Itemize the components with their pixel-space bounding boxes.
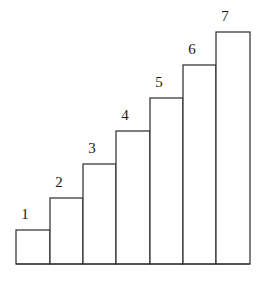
bar-label-4: 4 xyxy=(121,107,129,123)
bar-label-7: 7 xyxy=(221,8,229,24)
bar-label-1: 1 xyxy=(21,206,29,222)
bar-4 xyxy=(116,131,150,264)
bar-3 xyxy=(83,164,116,264)
bar-2 xyxy=(50,198,83,264)
bar-label-5: 5 xyxy=(155,74,163,90)
bar-label-3: 3 xyxy=(88,140,96,156)
bar-5 xyxy=(150,98,183,264)
bar-label-6: 6 xyxy=(188,41,196,57)
bars-group xyxy=(16,32,250,264)
bar-1 xyxy=(16,230,50,264)
bar-7 xyxy=(216,32,250,264)
bar-label-2: 2 xyxy=(55,174,63,190)
bar-6 xyxy=(183,65,216,264)
staircase-diagram: 1234567 xyxy=(0,0,263,281)
